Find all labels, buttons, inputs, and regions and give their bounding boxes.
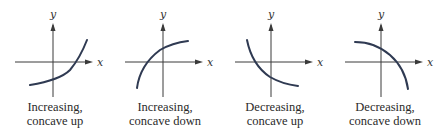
caption-line-2: concave up <box>220 114 330 128</box>
graph-increasing-concave-down: y x Increasing, concave down <box>110 0 220 138</box>
y-axis-arrow-icon <box>161 23 166 31</box>
y-axis-label: y <box>267 8 275 21</box>
x-axis-label: x <box>207 56 214 69</box>
x-axis-arrow-icon <box>415 60 423 65</box>
x-axis-arrow-icon <box>195 60 203 65</box>
x-axis-arrow-icon <box>85 60 93 65</box>
x-axis-label: x <box>97 56 104 69</box>
y-axis-label: y <box>377 8 385 21</box>
caption-line-1: Increasing, <box>0 100 110 114</box>
y-axis-arrow-icon <box>269 23 274 31</box>
graph-decreasing-concave-down: y x Decreasing, concave down <box>330 0 440 138</box>
caption-line-2: concave down <box>330 114 440 128</box>
graph-decreasing-concave-up: y x Decreasing, concave up <box>220 0 330 138</box>
caption: Decreasing, concave up <box>220 100 330 128</box>
graph-svg: y x <box>220 0 330 100</box>
y-axis-arrow-icon <box>379 23 384 31</box>
graph-svg: y x <box>0 0 110 100</box>
caption-line-1: Increasing, <box>110 100 220 114</box>
caption-line-1: Decreasing, <box>330 100 440 114</box>
caption-line-2: concave up <box>0 114 110 128</box>
caption: Decreasing, concave down <box>330 100 440 128</box>
graph-svg: y x <box>110 0 220 100</box>
x-axis-arrow-icon <box>305 60 313 65</box>
caption: Increasing, concave down <box>110 100 220 128</box>
y-axis-label: y <box>49 8 57 21</box>
graph-svg: y x <box>330 0 440 100</box>
caption-line-1: Decreasing, <box>220 100 330 114</box>
graph-increasing-concave-up: y x Increasing, concave up <box>0 0 110 138</box>
y-axis-label: y <box>159 8 167 21</box>
y-axis-arrow-icon <box>51 23 56 31</box>
caption: Increasing, concave up <box>0 100 110 128</box>
curve <box>247 40 298 86</box>
x-axis-label: x <box>427 56 434 69</box>
x-axis-label: x <box>317 56 324 69</box>
caption-line-2: concave down <box>110 114 220 128</box>
